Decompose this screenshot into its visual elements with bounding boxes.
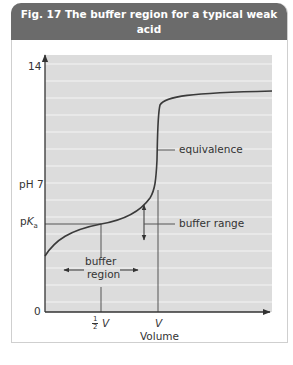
y-tick-pka: pKa — [20, 215, 38, 230]
buffer-range-label: buffer range — [179, 217, 244, 229]
y-tick-zero: 0 — [34, 305, 41, 317]
y-tick-pka-k: K — [27, 215, 34, 227]
buffer-region-label-2: region — [87, 268, 120, 280]
y-tick-ph7: pH 7 — [19, 178, 44, 190]
y-tick-14: 14 — [28, 60, 41, 72]
x-tick-v: V — [155, 317, 162, 329]
y-tick-pka-sub: a — [34, 222, 38, 230]
y-tick-pka-p: p — [20, 215, 27, 227]
titration-chart — [0, 0, 293, 365]
x-tick-half-fraction: 1 2 — [92, 316, 98, 331]
buffer-region-label-1: buffer — [85, 255, 116, 267]
x-tick-half-v: V — [102, 317, 109, 329]
x-tick-half-den: 2 — [92, 324, 98, 331]
x-axis-label: Volume — [140, 330, 179, 342]
equivalence-label: equivalence — [179, 143, 243, 155]
